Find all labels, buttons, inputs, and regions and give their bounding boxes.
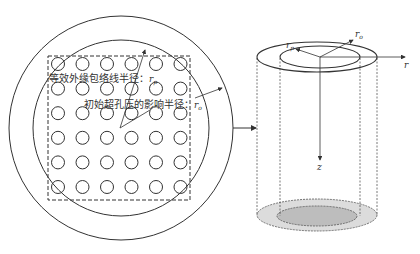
pile-circle	[76, 82, 89, 95]
outer-radius-label: ro	[355, 29, 363, 40]
pile-circle	[52, 131, 65, 144]
inner-radius-arrow	[296, 49, 320, 57]
influence-radius-arrow	[195, 88, 222, 98]
pile-circle	[52, 156, 65, 169]
pile-circle	[52, 107, 65, 120]
z-axis-label: z	[316, 162, 322, 172]
influence-radius-label: 初始超孔压的影响半径：ro	[84, 98, 202, 111]
pile-circle	[174, 156, 187, 169]
pile-circle	[125, 181, 138, 194]
envelope-radius-label: 等效外缘包络线半径：rp	[49, 72, 157, 86]
pile-circle	[174, 181, 187, 194]
outer-influence-circle	[9, 16, 233, 240]
pile-circle	[101, 58, 114, 71]
pile-circle	[150, 156, 163, 169]
envelope-radius-arrow	[120, 50, 145, 128]
pile-circle	[150, 181, 163, 194]
pile-group-axisymmetric-diagram: 等效外缘包络线半径：rp 初始超孔压的影响半径：ro r z rp ro	[0, 0, 420, 254]
pile-circle	[150, 58, 163, 71]
r-axis-label: r	[404, 60, 409, 70]
pile-circle	[174, 58, 187, 71]
axisymmetric-cylinder-model: r z rp ro	[257, 29, 409, 231]
pile-circle	[174, 82, 187, 95]
pile-circle	[52, 181, 65, 194]
pile-circle	[174, 131, 187, 144]
pile-circle	[125, 156, 138, 169]
inner-envelope-circle	[33, 40, 209, 216]
pile-circle	[125, 58, 138, 71]
bottom-inner-core	[277, 206, 357, 226]
pile-circle	[125, 131, 138, 144]
pile-circle	[52, 82, 65, 95]
pile-circle	[101, 156, 114, 169]
pile-circle	[76, 156, 89, 169]
pile-circle	[76, 181, 89, 194]
pile-circle	[76, 58, 89, 71]
pile-circle	[101, 131, 114, 144]
pile-circle	[101, 181, 114, 194]
pile-circle	[150, 131, 163, 144]
pile-circle	[52, 58, 65, 71]
pile-circle	[76, 131, 89, 144]
plan-view: 等效外缘包络线半径：rp 初始超孔压的影响半径：ro	[9, 16, 233, 240]
pile-circle	[101, 82, 114, 95]
